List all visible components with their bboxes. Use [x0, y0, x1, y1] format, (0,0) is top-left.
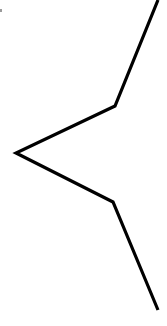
diagram-canvas	[0, 0, 167, 326]
outline-polyline	[16, 0, 158, 310]
star-outline-shape	[0, 0, 167, 326]
stray-mark	[0, 9, 2, 12]
